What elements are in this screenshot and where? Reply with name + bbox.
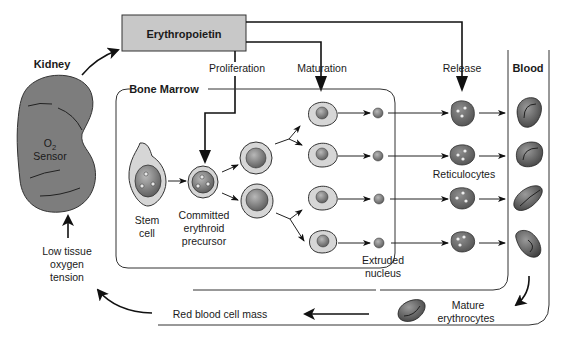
committed-label-1: Committed	[179, 209, 230, 221]
rbc-mass-to-low-o2-arrow	[98, 290, 152, 313]
extruded-nuclei	[338, 108, 384, 248]
mature-label-2: erythrocytes	[437, 312, 494, 324]
kidney-to-epo-arrow	[82, 50, 118, 75]
low-o2-line1: Low tissue	[42, 245, 92, 257]
extruded-label-2: nucleus	[365, 267, 401, 279]
erythrocyte-row-2	[516, 142, 542, 167]
erythrocytes-in-blood	[514, 98, 543, 258]
erythrocyte-row-1	[517, 98, 541, 128]
maturation-arrowhead	[315, 76, 327, 92]
erythroblast-row-2	[309, 143, 338, 167]
proliferation-label: Proliferation	[209, 62, 265, 74]
committed-erythroid-precursor	[188, 166, 218, 198]
proliferation-signal-line	[205, 76, 235, 150]
committed-label-2: erythroid	[184, 222, 225, 234]
stem-cell	[129, 143, 166, 206]
mature-label-1: Mature	[452, 299, 485, 311]
release-signal-line	[246, 22, 462, 76]
erythroblast-row-4	[309, 231, 336, 253]
erythrocyte-row-4	[516, 230, 541, 257]
reticulocyte-row-4	[451, 232, 475, 252]
reticulocytes-label: Reticulocytes	[433, 168, 495, 180]
release-arrowhead	[456, 76, 468, 92]
rbc-mass-label: Red blood cell mass	[173, 308, 268, 320]
low-o2-line3: tension	[50, 271, 84, 283]
erythrocyte-row-3	[514, 186, 542, 211]
proliferation-arrowhead	[199, 150, 211, 164]
kidney-label: Kidney	[34, 58, 72, 70]
reticulocyte-row-1	[451, 101, 474, 126]
sensor-label: Sensor	[33, 150, 67, 162]
maturation-label: Maturation	[297, 62, 347, 74]
erythropoietin-label: Erythropoietin	[146, 28, 221, 40]
bone-marrow-label: Bone Marrow	[129, 83, 199, 95]
committed-label-3: precursor	[182, 235, 227, 247]
stem-cell-label-2: cell	[139, 227, 155, 239]
kidney-shape: O2 Sensor	[17, 75, 95, 212]
stem-cell-label-1: Stem	[135, 214, 160, 226]
blood-to-mature-arrow	[516, 276, 529, 305]
extruded-label-1: Extruded	[362, 254, 404, 266]
blood-label: Blood	[512, 62, 543, 74]
reticulocyte-row-2	[450, 145, 475, 165]
erythroblast-row-3	[309, 186, 338, 210]
reticulocyte-row-3	[450, 188, 475, 209]
release-label: Release	[443, 62, 482, 74]
erythropoietin-box: Erythropoietin	[122, 15, 246, 51]
erythropoiesis-diagram: Erythropoietin Proliferation Maturation …	[0, 0, 562, 340]
low-o2-line2: oxygen	[50, 258, 84, 270]
erythroblast-row-1	[309, 102, 338, 126]
proerythroblast-lower	[241, 184, 273, 218]
proerythroblast-upper	[240, 142, 272, 174]
mature-erythrocyte-loop	[398, 300, 425, 322]
